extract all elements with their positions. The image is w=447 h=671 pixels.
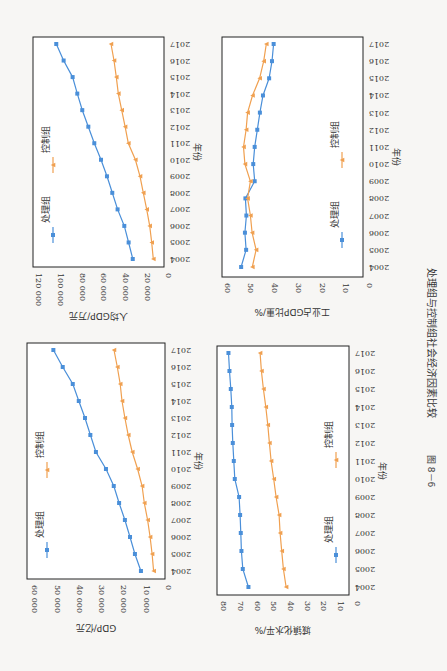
x-tick-label: 2016 bbox=[355, 367, 375, 376]
x-tick-label: 2010 bbox=[369, 160, 389, 169]
chart-gdp-per-capita: 020 00040 00060 00080 000100 000120 000人… bbox=[33, 37, 203, 322]
x-tick-label: 2010 bbox=[171, 465, 191, 474]
square-marker-icon bbox=[51, 233, 55, 237]
x-tick-label: 2013 bbox=[170, 106, 190, 115]
x-tick-label: 2014 bbox=[355, 403, 375, 412]
y-axis-title: 人均GDP/万元 bbox=[69, 311, 127, 322]
square-marker-icon bbox=[51, 348, 55, 352]
square-marker-icon bbox=[239, 549, 243, 553]
square-marker-icon bbox=[105, 174, 109, 178]
square-marker-icon bbox=[127, 240, 131, 244]
x-tick-label: 2017 bbox=[355, 349, 375, 358]
x-tick-label: 2011 bbox=[171, 448, 191, 457]
x-tick-label: 2012 bbox=[171, 431, 191, 440]
x-tick-label: 2005 bbox=[171, 550, 191, 559]
square-marker-icon bbox=[230, 405, 234, 409]
y-axis-title: GDP/亿元 bbox=[76, 623, 116, 634]
x-tick-label: 2011 bbox=[369, 143, 389, 152]
y-tick-label: 60 000 bbox=[30, 585, 39, 613]
square-marker-icon bbox=[54, 42, 58, 46]
x-tick-label: 2004 bbox=[170, 255, 190, 264]
square-marker-icon bbox=[231, 441, 235, 445]
legend-label: 处理组 bbox=[323, 516, 334, 543]
x-tick-label: 2017 bbox=[170, 40, 190, 49]
x-tick-label: 2010 bbox=[170, 156, 190, 165]
square-marker-icon bbox=[232, 459, 236, 463]
square-marker-icon bbox=[258, 111, 262, 115]
legend-label: 控制组 bbox=[329, 121, 340, 148]
y-tick-label: 80 000 bbox=[78, 273, 87, 301]
y-axis-title: 工业占GDP比重/% bbox=[254, 307, 330, 318]
y-tick-label: 30 bbox=[303, 601, 312, 611]
square-marker-icon bbox=[71, 382, 75, 386]
legend-label: 控制组 bbox=[34, 431, 45, 458]
plot-area bbox=[27, 343, 165, 579]
legend-label: 控制组 bbox=[323, 421, 334, 448]
square-marker-icon bbox=[251, 162, 255, 166]
square-marker-icon bbox=[123, 518, 127, 522]
x-axis-title: 年份 bbox=[377, 462, 388, 480]
caption-text: 处理组与控制组社会经济因素比较 bbox=[426, 268, 438, 418]
square-marker-icon bbox=[272, 42, 276, 46]
square-marker-icon bbox=[253, 179, 257, 183]
x-tick-label: 2009 bbox=[355, 493, 375, 502]
x-tick-label: 2009 bbox=[170, 172, 190, 181]
y-tick-label: 0 bbox=[164, 585, 173, 590]
y-tick-label: 100 000 bbox=[56, 273, 65, 306]
x-tick-label: 2016 bbox=[171, 363, 191, 372]
x-tick-label: 2017 bbox=[171, 346, 191, 355]
x-tick-label: 2010 bbox=[355, 475, 375, 484]
square-marker-icon bbox=[246, 585, 250, 589]
y-tick-label: 40 bbox=[286, 601, 295, 611]
y-tick-label: 30 bbox=[294, 283, 303, 293]
x-tick-label: 2015 bbox=[369, 74, 389, 83]
y-tick-label: 60 000 bbox=[99, 273, 108, 301]
x-axis-title: 年份 bbox=[192, 143, 203, 161]
y-tick-label: 120 000 bbox=[34, 273, 43, 306]
x-tick-label: 2007 bbox=[369, 212, 389, 221]
square-marker-icon bbox=[334, 553, 338, 557]
y-tick-label: 0 bbox=[353, 601, 362, 606]
y-tick-label: 40 bbox=[270, 283, 279, 293]
square-marker-icon bbox=[229, 387, 233, 391]
square-marker-icon bbox=[241, 567, 245, 571]
x-tick-label: 2016 bbox=[170, 57, 190, 66]
x-axis-title: 年份 bbox=[391, 148, 402, 166]
x-tick-label: 2016 bbox=[369, 57, 389, 66]
y-tick-label: 80 bbox=[219, 601, 228, 611]
y-tick-label: 60 bbox=[253, 601, 262, 611]
y-tick-label: 20 000 bbox=[119, 585, 128, 613]
square-marker-icon bbox=[253, 145, 257, 149]
square-marker-icon bbox=[243, 231, 247, 235]
square-marker-icon bbox=[139, 569, 143, 573]
square-marker-icon bbox=[62, 59, 66, 63]
legend-label: 处理组 bbox=[34, 511, 45, 538]
x-tick-label: 2014 bbox=[369, 91, 389, 100]
x-tick-label: 2012 bbox=[170, 123, 190, 132]
y-tick-label: 50 bbox=[269, 601, 278, 611]
y-tick-label: 50 bbox=[246, 283, 255, 293]
x-tick-label: 2012 bbox=[369, 126, 389, 135]
x-tick-label: 2015 bbox=[170, 73, 190, 82]
square-marker-icon bbox=[131, 257, 135, 261]
square-marker-icon bbox=[233, 477, 237, 481]
x-tick-label: 2008 bbox=[171, 499, 191, 508]
square-marker-icon bbox=[261, 93, 265, 97]
x-tick-label: 2007 bbox=[170, 205, 190, 214]
square-marker-icon bbox=[244, 248, 248, 252]
square-marker-icon bbox=[133, 552, 137, 556]
square-marker-icon bbox=[71, 75, 75, 79]
square-marker-icon bbox=[239, 531, 243, 535]
x-tick-label: 2004 bbox=[355, 583, 375, 592]
x-tick-label: 2005 bbox=[369, 246, 389, 255]
square-marker-icon bbox=[116, 207, 120, 211]
square-marker-icon bbox=[226, 351, 230, 355]
square-marker-icon bbox=[122, 224, 126, 228]
y-tick-label: 60 bbox=[223, 283, 232, 293]
square-marker-icon bbox=[270, 59, 274, 63]
square-marker-icon bbox=[244, 214, 248, 218]
x-tick-label: 2015 bbox=[355, 385, 375, 394]
x-tick-label: 2008 bbox=[369, 194, 389, 203]
y-tick-label: 10 000 bbox=[142, 585, 151, 613]
x-tick-label: 2007 bbox=[171, 516, 191, 525]
